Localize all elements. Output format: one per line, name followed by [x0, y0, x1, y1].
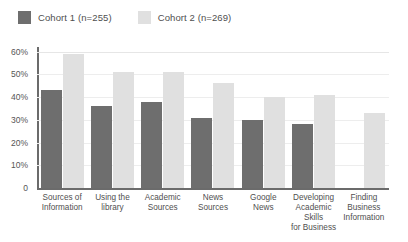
- bar[interactable]: [292, 124, 313, 188]
- x-axis-category-label: News Sources: [188, 193, 238, 233]
- bar[interactable]: [191, 118, 212, 189]
- bar[interactable]: [163, 72, 184, 188]
- bar-group: [37, 47, 87, 188]
- y-axis-tick-20: 20%: [11, 138, 33, 148]
- x-axis-category-label: Finding Business Information: [339, 193, 389, 233]
- legend-item-cohort-2[interactable]: Cohort 2 (n=269): [138, 11, 232, 24]
- bar[interactable]: [242, 120, 263, 188]
- bar[interactable]: [63, 54, 84, 188]
- bar-group: [138, 47, 188, 188]
- legend-label-cohort-2: Cohort 2 (n=269): [158, 12, 232, 23]
- x-axis-line: [37, 188, 389, 190]
- plot-area: [37, 47, 389, 188]
- y-axis-labels: 60%50%40%30%20%10%0: [0, 47, 33, 189]
- bar[interactable]: [314, 95, 335, 188]
- bar-group: [87, 47, 137, 188]
- bar-group: [339, 47, 389, 188]
- x-axis-categories: Sources of InformationUsing the libraryA…: [37, 193, 389, 233]
- x-axis-category-label: Developing Academic Skills for Business: [288, 193, 338, 233]
- bar[interactable]: [113, 72, 134, 188]
- x-axis-category-label: Sources of Information: [37, 193, 87, 233]
- bar[interactable]: [213, 83, 234, 188]
- bar[interactable]: [364, 113, 385, 188]
- bar[interactable]: [141, 102, 162, 188]
- bar-group: [238, 47, 288, 188]
- chart-legend: Cohort 1 (n=255) Cohort 2 (n=269): [18, 11, 231, 24]
- bar[interactable]: [41, 90, 62, 188]
- legend-item-cohort-1[interactable]: Cohort 1 (n=255): [18, 11, 112, 24]
- y-axis-tick-60: 60%: [11, 47, 33, 57]
- legend-swatch-cohort-2: [138, 11, 151, 24]
- legend-swatch-cohort-1: [18, 11, 31, 24]
- legend-label-cohort-1: Cohort 1 (n=255): [38, 12, 112, 23]
- bar-groups: [37, 47, 389, 188]
- y-axis-tick-30: 30%: [11, 115, 33, 125]
- bar-chart: Cohort 1 (n=255) Cohort 2 (n=269) 60%50%…: [0, 0, 408, 242]
- bar-group: [288, 47, 338, 188]
- x-axis-category-label: Google News: [238, 193, 288, 233]
- y-axis-tick-40: 40%: [11, 92, 33, 102]
- bar[interactable]: [264, 97, 285, 188]
- bar-group: [188, 47, 238, 188]
- y-axis-tick-0: 0: [23, 183, 33, 193]
- x-axis-category-label: Using the library: [87, 193, 137, 233]
- x-axis-category-label: Academic Sources: [138, 193, 188, 233]
- y-axis-tick-50: 50%: [11, 69, 33, 79]
- y-axis-tick-10: 10%: [11, 160, 33, 170]
- bar[interactable]: [91, 106, 112, 188]
